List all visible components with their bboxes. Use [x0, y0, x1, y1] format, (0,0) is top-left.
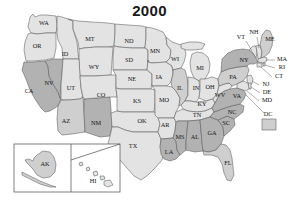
state-label-MD: MD — [262, 96, 273, 103]
state-ND[interactable] — [114, 24, 146, 48]
leader-RI — [265, 65, 275, 68]
leader-MD — [247, 91, 259, 101]
state-label-NH: NH — [249, 28, 259, 35]
state-label-NJ: NJ — [263, 80, 271, 87]
state-NE[interactable] — [113, 70, 152, 89]
state-CO[interactable] — [80, 75, 117, 99]
state-label-DC: DC — [264, 110, 273, 117]
state-DC[interactable] — [262, 119, 276, 130]
state-NM[interactable] — [84, 97, 112, 137]
state-label-CT: CT — [275, 72, 283, 79]
state-MI[interactable] — [190, 52, 210, 81]
us-choropleth-map-figure: 2000 — [0, 0, 299, 206]
inset-layer — [14, 144, 120, 192]
state-KS[interactable] — [116, 88, 155, 112]
state-label-VT: VT — [237, 33, 246, 40]
map-canvas: WA OR CA NV ID MT WY UT AZ NM CO ND SD N… — [0, 0, 299, 206]
leader-CT — [261, 67, 272, 77]
state-WA[interactable] — [28, 14, 57, 34]
leader-DE — [251, 87, 260, 93]
state-MI-up[interactable] — [181, 42, 205, 50]
state-label-DE: DE — [263, 88, 272, 95]
state-label-MA: MA — [277, 55, 288, 62]
state-AR[interactable] — [158, 118, 176, 139]
state-OR[interactable] — [24, 33, 56, 61]
state-AZ[interactable] — [57, 97, 85, 135]
state-SD[interactable] — [113, 46, 148, 70]
state-CT[interactable] — [257, 63, 262, 67]
state-RI[interactable] — [263, 63, 265, 66]
state-WY[interactable] — [79, 47, 113, 76]
state-ME[interactable] — [260, 30, 273, 58]
state-label-RI: RI — [279, 63, 285, 70]
leader-NJ — [252, 81, 259, 85]
